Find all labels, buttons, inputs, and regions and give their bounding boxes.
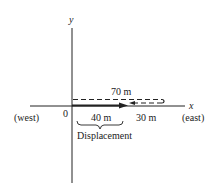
displacement-label: Displacement bbox=[77, 131, 132, 141]
turnaround-curve bbox=[162, 100, 164, 104]
displacement-arrowhead-icon bbox=[119, 103, 128, 109]
x-axis-label: x bbox=[189, 101, 193, 111]
displacement-diagram bbox=[0, 0, 217, 189]
east-label: (east) bbox=[182, 113, 204, 123]
total-distance-label: 70 m bbox=[111, 87, 131, 97]
return-arrowhead-icon bbox=[129, 101, 135, 105]
y-axis-label: y bbox=[69, 15, 73, 25]
segment-40m-label: 40 m bbox=[91, 113, 111, 123]
segment-30m-label: 30 m bbox=[136, 113, 156, 123]
origin-label: 0 bbox=[63, 109, 68, 119]
west-label: (west) bbox=[14, 113, 39, 123]
